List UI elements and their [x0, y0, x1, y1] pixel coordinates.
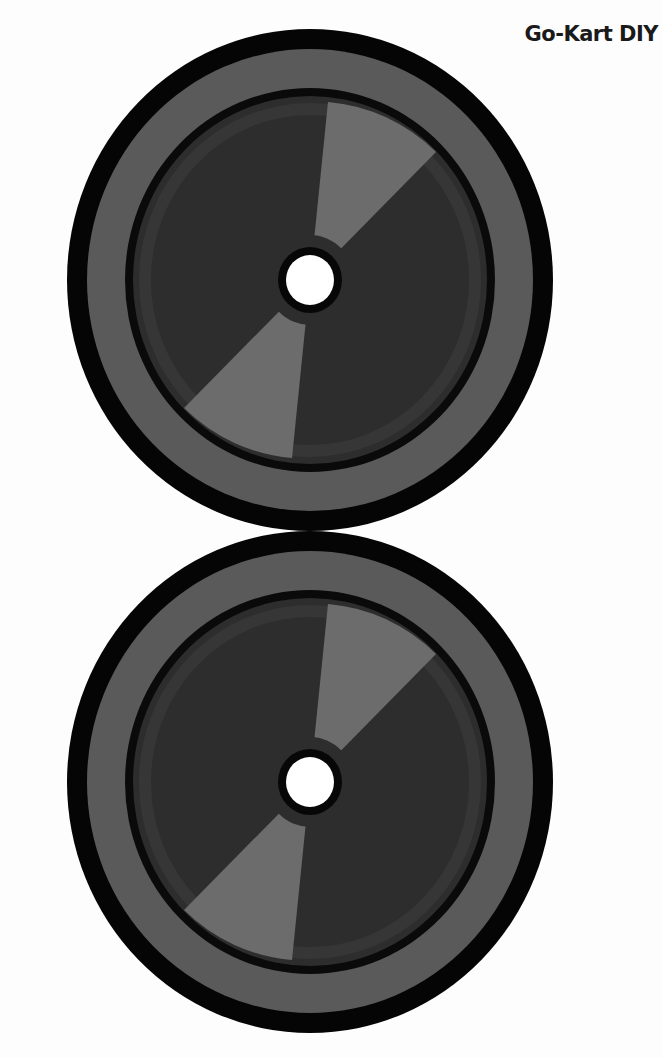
- wheel-top: [0, 0, 662, 532]
- center-hole-icon: [286, 255, 334, 305]
- center-hole-icon: [286, 757, 334, 807]
- wheel-bottom: [0, 528, 662, 1058]
